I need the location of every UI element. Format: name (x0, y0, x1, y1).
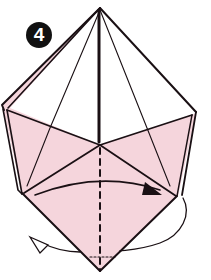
turn-over-arrow-head (30, 237, 48, 253)
origami-diagram: 4 (0, 0, 211, 280)
step-number-badge: 4 (26, 22, 52, 48)
